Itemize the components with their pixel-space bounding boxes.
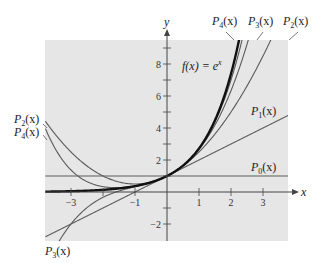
y-axis-arrow-icon — [164, 29, 170, 36]
x-tick-label: −3 — [66, 197, 77, 208]
label-p3-bottom: P3(x) — [44, 244, 70, 260]
x-tick-label: −1 — [130, 197, 141, 208]
x-tick-label: 2 — [229, 197, 234, 208]
x-axis-label: x — [300, 185, 307, 199]
y-tick-label: 2 — [156, 155, 161, 166]
x-tick-label: 3 — [261, 197, 266, 208]
y-tick-label: −2 — [150, 219, 161, 230]
label-p2-top: P2(x) — [282, 14, 308, 30]
label-p1: P1(x) — [250, 104, 276, 120]
label-fx: f(x) = ex — [182, 58, 222, 73]
x-tick-label: 1 — [197, 197, 202, 208]
label-p4-top: P4(x) — [211, 14, 237, 30]
taylor-polynomials-chart: −3−1123 −22468 x y f(x) = ex P4(x) P3(x)… — [0, 0, 322, 271]
label-p0: P0(x) — [250, 160, 276, 176]
x-axis-arrow-icon — [292, 189, 299, 195]
y-axis-label: y — [163, 15, 170, 29]
label-p3-top: P3(x) — [247, 14, 273, 30]
y-tick-label: 6 — [156, 91, 161, 102]
y-tick-label: 8 — [156, 59, 161, 70]
label-p4-left: P4(x) — [13, 125, 39, 141]
y-tick-label: 4 — [156, 123, 161, 134]
